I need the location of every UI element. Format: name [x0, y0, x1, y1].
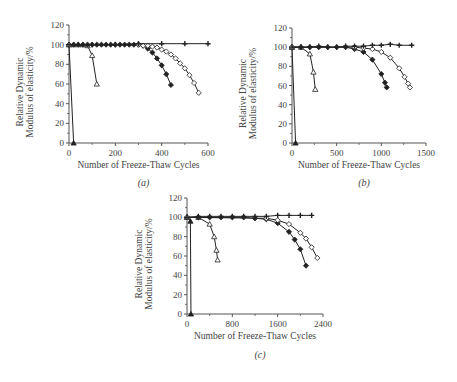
- diamond-marker-icon: [168, 82, 173, 87]
- series-open-triangle: [66, 42, 99, 86]
- series-open-diamond: [66, 42, 201, 95]
- y-tick-label: 100: [274, 42, 288, 52]
- x-tick-label: 1600: [269, 319, 288, 329]
- x-tick-label: 500: [330, 148, 344, 158]
- y-tick-label: 80: [278, 61, 288, 71]
- y-tick-label: 20: [278, 119, 288, 129]
- y-axis-title-line1: Relative Dynamic: [15, 58, 25, 127]
- y-tick-label: 120: [51, 20, 65, 30]
- triangle-marker-icon: [212, 234, 217, 239]
- diamond-marker-icon: [192, 80, 197, 85]
- y-tick-label: 40: [173, 270, 183, 280]
- series-line: [187, 217, 317, 258]
- plus-marker-icon: [286, 213, 291, 218]
- diamond-marker-icon: [298, 247, 303, 252]
- plus-marker-icon: [379, 43, 384, 48]
- plus-marker-icon: [309, 213, 314, 218]
- y-tick-label: 120: [169, 193, 183, 203]
- x-tick-label: 400: [155, 148, 169, 158]
- y-tick-label: 0: [178, 309, 183, 319]
- series-line: [292, 47, 387, 87]
- x-tick-label: 1000: [372, 148, 391, 158]
- plus-marker-icon: [275, 213, 280, 218]
- plus-marker-icon: [90, 42, 95, 47]
- series-line: [292, 47, 296, 143]
- diamond-marker-icon: [315, 255, 320, 260]
- y-axis-title-line2: Modulus of elasticity/%: [25, 46, 35, 137]
- y-tick-label: 20: [173, 290, 183, 300]
- x-tick-label: 0: [67, 148, 72, 158]
- y-tick-label: 100: [51, 40, 65, 50]
- plus-marker-icon: [113, 42, 118, 47]
- plus-marker-icon: [182, 41, 187, 46]
- series-solid-diamond: [289, 45, 389, 90]
- x-axis-title: Number of Freeze-Thaw Cycles: [194, 331, 316, 341]
- diamond-marker-icon: [164, 72, 169, 77]
- series-line: [69, 45, 74, 143]
- panel-label: (a): [138, 177, 150, 189]
- plus-marker-icon: [298, 213, 303, 218]
- y-tick-label: 40: [55, 99, 65, 109]
- y-tick-label: 120: [274, 23, 288, 33]
- series-line: [292, 47, 315, 89]
- triangle-marker-icon: [94, 81, 99, 86]
- plus-marker-icon: [325, 45, 330, 50]
- panel-label: (b): [358, 177, 370, 189]
- y-tick-label: 60: [55, 79, 65, 89]
- diamond-marker-icon: [309, 245, 314, 250]
- x-tick-label: 200: [109, 148, 123, 158]
- triangle-marker-icon: [90, 53, 95, 58]
- plus-marker-icon: [397, 43, 402, 48]
- series-plus: [184, 213, 314, 220]
- y-axis-title-line2: Modulus of elasticity/%: [248, 48, 258, 139]
- series-line: [69, 45, 97, 84]
- plus-marker-icon: [388, 42, 393, 47]
- plus-marker-icon: [334, 45, 339, 50]
- x-tick-label: 800: [226, 319, 240, 329]
- chart-panel-a: 0204060801001200200400600Number of Freez…: [15, 20, 215, 189]
- y-axis-title-line1: Relative Dynamic: [134, 230, 144, 299]
- plus-marker-icon: [307, 45, 312, 50]
- triangle-marker-icon: [214, 248, 219, 253]
- y-tick-label: 80: [173, 232, 183, 242]
- y-tick-label: 0: [60, 138, 65, 148]
- y-tick-label: 40: [278, 100, 288, 110]
- panel-label: (c): [254, 349, 266, 361]
- y-tick-label: 80: [55, 59, 65, 69]
- chart-panel-c: 020406080100120080016002400Number of Fre…: [134, 193, 333, 361]
- triangle-marker-icon: [207, 222, 212, 227]
- triangle-marker-icon: [311, 69, 316, 74]
- y-tick-label: 100: [169, 212, 183, 222]
- triangle-marker-icon: [313, 87, 318, 92]
- y-axis-title-line2: Modulus of elasticity/%: [144, 218, 154, 309]
- plus-marker-icon: [159, 41, 164, 46]
- plus-marker-icon: [205, 41, 210, 46]
- series-open-diamond: [289, 45, 412, 90]
- x-tick-label: 600: [201, 148, 215, 158]
- chart-panel-b: 020406080100120050010001500Number of Fre…: [238, 23, 436, 189]
- x-tick-label: 0: [290, 148, 295, 158]
- plus-marker-icon: [409, 43, 414, 48]
- diamond-marker-icon: [196, 90, 201, 95]
- y-axis-title-line1: Relative Dynamic: [238, 59, 248, 128]
- series-line: [69, 45, 171, 85]
- y-tick-label: 20: [55, 118, 65, 128]
- x-axis-title: Number of Freeze-Thaw Cycles: [77, 160, 199, 170]
- x-axis-title: Number of Freeze-Thaw Cycles: [298, 160, 420, 170]
- diamond-marker-icon: [379, 49, 384, 54]
- diamond-marker-icon: [379, 71, 384, 76]
- x-tick-label: 2400: [314, 319, 333, 329]
- x-tick-label: 1500: [417, 148, 436, 158]
- figure: 0204060801001200200400600Number of Freez…: [0, 0, 457, 382]
- y-tick-label: 0: [283, 138, 288, 148]
- diamond-marker-icon: [402, 74, 407, 79]
- diamond-marker-icon: [303, 263, 308, 268]
- series-line: [187, 217, 191, 314]
- plus-marker-icon: [370, 43, 375, 48]
- series-line: [69, 45, 199, 93]
- y-tick-label: 60: [173, 251, 183, 261]
- x-tick-label: 0: [185, 319, 190, 329]
- triangle-marker-icon: [215, 257, 220, 262]
- y-tick-label: 60: [278, 81, 288, 91]
